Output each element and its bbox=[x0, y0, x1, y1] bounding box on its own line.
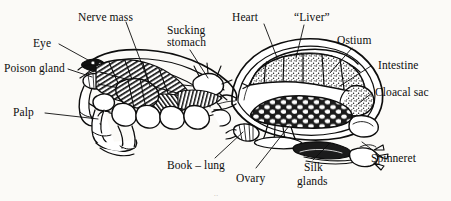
label-sucking-stomach-line1: Sucking bbox=[167, 24, 205, 37]
spider-anatomy-figure: Nerve mass Sucking stomach Heart “Liver”… bbox=[0, 0, 451, 201]
label-poison-gland: Poison gland bbox=[4, 62, 65, 75]
leader-sucking-stomach bbox=[190, 50, 208, 78]
label-palp: Palp bbox=[13, 106, 34, 119]
label-cloacal-sac: Cloacal sac bbox=[375, 86, 429, 99]
label-silk-glands-line2: glands bbox=[297, 175, 328, 188]
leader-eye bbox=[59, 44, 88, 60]
cloacal-sac-organ bbox=[349, 115, 378, 137]
plate-number: .. bbox=[214, 190, 218, 198]
label-eye: Eye bbox=[33, 37, 51, 50]
spider-anatomy-drawing bbox=[0, 0, 451, 201]
label-ostium: Ostium bbox=[337, 34, 371, 47]
label-liver: “Liver” bbox=[294, 11, 330, 24]
label-sucking-stomach-line2: stomach bbox=[167, 36, 206, 49]
label-ovary: Ovary bbox=[236, 172, 265, 185]
label-book-lung: Book – lung bbox=[167, 159, 225, 172]
label-nerve-mass: Nerve mass bbox=[78, 11, 133, 24]
ovary-organ bbox=[251, 96, 352, 149]
leader-book-lung bbox=[215, 132, 243, 158]
label-heart: Heart bbox=[232, 11, 258, 24]
label-spinneret: Spinneret bbox=[371, 152, 416, 165]
label-intestine: Intestine bbox=[378, 59, 419, 72]
label-silk-glands-line1: Silk bbox=[304, 161, 323, 174]
silk-glands-organ bbox=[293, 142, 356, 164]
